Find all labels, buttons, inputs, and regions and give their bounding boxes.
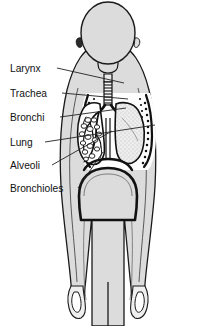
larynx — [104, 74, 112, 82]
respiratory-system-figure: Larynx Trachea Bronchi Lung Alveoli Bron… — [0, 0, 216, 326]
thumb-right — [135, 292, 144, 312]
thumb-left — [72, 292, 81, 312]
head — [81, 2, 135, 64]
ear-right-icon — [134, 38, 140, 48]
label-bronchioles: Bronchioles — [10, 183, 63, 194]
label-trachea: Trachea — [10, 88, 47, 99]
label-alveoli: Alveoli — [10, 160, 40, 171]
label-group: Larynx Trachea Bronchi Lung Alveoli Bron… — [10, 63, 63, 194]
ear-left-icon — [76, 38, 82, 48]
lung-right — [115, 103, 144, 164]
label-lung: Lung — [10, 137, 33, 148]
diaphragm-lower — [79, 168, 137, 220]
label-bronchi: Bronchi — [10, 112, 45, 123]
diagram-page: Larynx Trachea Bronchi Lung Alveoli Bron… — [0, 0, 216, 326]
trachea-rings — [104, 85, 112, 103]
label-larynx: Larynx — [10, 63, 41, 74]
